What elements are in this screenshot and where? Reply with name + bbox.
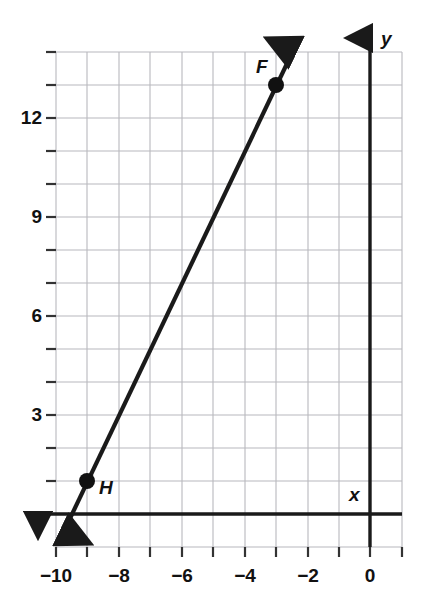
- y-axis-ticks: [46, 52, 56, 481]
- y-tick-label-9: 9: [10, 206, 42, 228]
- point-H-label: H: [99, 477, 113, 499]
- coordinate-plane: [0, 0, 432, 610]
- x-axis-label: x: [349, 484, 360, 506]
- x-tick-label-neg10: −10: [26, 565, 86, 587]
- point-H: [79, 473, 95, 489]
- x-tick-label-neg6: −6: [152, 565, 212, 587]
- x-tick-label-0: 0: [340, 565, 400, 587]
- x-tick-label-neg4: −4: [215, 565, 275, 587]
- point-F: [268, 77, 284, 93]
- x-axis-ticks: [56, 547, 402, 557]
- y-axis-label: y: [381, 28, 392, 50]
- grid-vertical: [56, 52, 402, 547]
- graph-canvas: 12 9 6 3 −10 −8 −6 −4 −2 0 y x F H: [0, 0, 432, 610]
- y-tick-label-6: 6: [10, 305, 42, 327]
- x-tick-label-neg2: −2: [278, 565, 338, 587]
- y-tick-label-3: 3: [10, 404, 42, 426]
- y-tick-label-12: 12: [10, 107, 42, 129]
- x-tick-label-neg8: −8: [89, 565, 149, 587]
- point-F-label: F: [256, 56, 268, 78]
- grid-horizontal: [56, 52, 402, 547]
- plotted-line: [64, 51, 293, 531]
